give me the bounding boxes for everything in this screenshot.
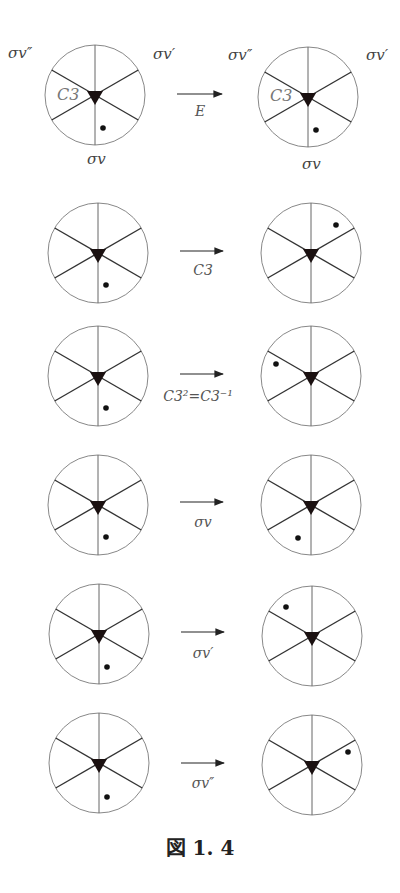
dot-before — [103, 534, 109, 540]
dot-before — [104, 794, 110, 800]
label-sigma-v-right: σv — [302, 155, 321, 173]
dot-after — [295, 535, 301, 541]
operation-label-sigma-v-double-prime: σv″ — [192, 775, 215, 791]
label-c3-right: C3 — [270, 86, 292, 105]
row-identity — [45, 45, 358, 147]
label-sigma-v-prime-left: σv′ — [153, 45, 175, 63]
disk-after — [261, 326, 361, 426]
disk-before — [48, 203, 148, 303]
disk-after — [261, 455, 361, 555]
label-sigma-v-prime-right: σv′ — [366, 46, 388, 64]
operation-label-identity: E — [195, 103, 205, 119]
disk-before — [48, 326, 148, 426]
dot-after — [283, 604, 289, 610]
operation-label-sigma-v: σv — [194, 514, 211, 530]
operation-label-c3: C3 — [193, 262, 213, 278]
dot-before — [103, 282, 109, 288]
dot-after — [273, 361, 279, 367]
dot-before — [103, 405, 109, 411]
disk-before — [48, 455, 148, 555]
disk-after — [262, 715, 362, 815]
row-c3-squared — [48, 326, 361, 426]
dot-after — [345, 749, 351, 755]
disk-before — [49, 713, 149, 813]
operation-label-c3-squared: C3²=C3⁻¹ — [163, 388, 233, 404]
row-sigma-v-double-prime — [49, 713, 362, 815]
dot-before — [104, 664, 110, 670]
row-sigma-v — [48, 455, 361, 555]
symmetry-operations-diagram — [0, 0, 400, 893]
dot-after — [333, 222, 339, 228]
label-sigma-v-left: σv — [87, 150, 106, 168]
label-sigma-v-double-prime-left: σv″ — [8, 44, 32, 62]
row-c3 — [48, 203, 361, 303]
label-sigma-v-double-prime-right: σv″ — [228, 46, 252, 64]
dot-before — [100, 125, 106, 131]
figure-caption: 図 1. 4 — [0, 832, 400, 861]
label-c3-left: C3 — [57, 85, 79, 104]
operation-label-sigma-v-prime: σv′ — [193, 645, 214, 661]
disk-after — [261, 203, 361, 303]
disk-after — [262, 586, 362, 686]
disk-before — [49, 584, 149, 684]
dot-after — [313, 127, 319, 133]
row-sigma-v-prime — [49, 584, 362, 686]
